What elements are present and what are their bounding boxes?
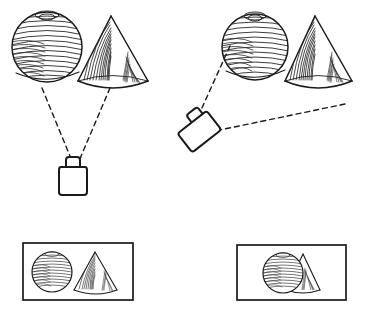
- left-scene-sphere: [10, 11, 84, 82]
- right-scene-camera: [172, 104, 221, 153]
- right-view-sphere: [263, 253, 303, 294]
- figure-canvas: Two camera viewpoints of a sphere-and-co…: [0, 0, 370, 323]
- left-scene-cone: [78, 16, 148, 88]
- right-scene-sphere: [221, 12, 289, 80]
- left-scene-camera: [59, 157, 87, 195]
- left-scene-sight-lines: [42, 88, 110, 161]
- right-scene-cone: [285, 16, 352, 88]
- scene-diagram: [0, 0, 370, 323]
- left-view-sphere: [32, 252, 72, 293]
